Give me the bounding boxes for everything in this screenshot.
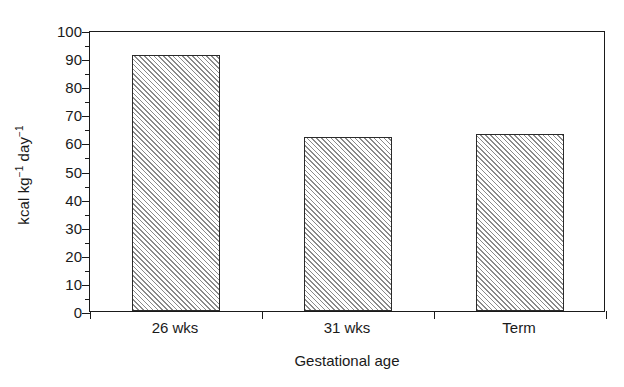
y-axis-minor-tick (85, 243, 90, 244)
y-axis-minor-tick (85, 215, 90, 216)
y-axis-tick-label: 10 (65, 276, 82, 291)
y-axis-major-tick (82, 32, 90, 33)
y-axis-tick-label: 60 (65, 136, 82, 151)
x-axis-tick-label: Term (502, 320, 535, 335)
y-axis-major-tick (82, 88, 90, 89)
y-axis-major-tick (82, 201, 90, 202)
y-axis-title: kcal kg−1 day−1 (10, 50, 36, 300)
y-axis-major-tick (82, 313, 90, 314)
x-axis-end-tick (90, 311, 91, 319)
y-axis-title-exponent-1: −1 (14, 166, 25, 178)
y-axis-major-tick (82, 229, 90, 230)
y-axis-tick-label: 80 (65, 80, 82, 95)
y-axis-minor-tick (85, 102, 90, 103)
y-axis-tick-label: 50 (65, 164, 82, 179)
plot-area (89, 31, 605, 312)
y-axis-tick-label: 70 (65, 108, 82, 123)
bar (132, 55, 221, 311)
y-axis-tick-label: 40 (65, 192, 82, 207)
x-axis-tick-labels: 26 wks31 wksTerm (89, 320, 605, 342)
bar-chart-figure: kcal kg−1 day−1 0102030405060708090100 2… (0, 0, 624, 387)
x-axis-tick (434, 311, 435, 319)
x-axis-tick (262, 311, 263, 319)
x-axis-end-tick (606, 311, 607, 319)
x-axis-tick-label: 31 wks (324, 320, 371, 335)
y-axis-minor-tick (85, 130, 90, 131)
y-axis-tick-labels: 0102030405060708090100 (36, 31, 82, 312)
y-axis-major-tick (82, 144, 90, 145)
y-axis-tick-label: 30 (65, 220, 82, 235)
y-axis-title-exponent-2: −1 (14, 125, 25, 137)
y-axis-title-prefix: kcal kg (15, 177, 32, 224)
y-axis-minor-tick (85, 158, 90, 159)
y-axis-major-tick (82, 285, 90, 286)
y-axis-major-tick (82, 116, 90, 117)
y-axis-minor-tick (85, 74, 90, 75)
x-axis-tick-label: 26 wks (152, 320, 199, 335)
y-axis-minor-tick (85, 299, 90, 300)
y-axis-tick-label: 20 (65, 248, 82, 263)
y-axis-major-tick (82, 173, 90, 174)
y-axis-tick-label: 90 (65, 52, 82, 67)
y-axis-tick-label: 100 (57, 24, 82, 39)
y-axis-minor-tick (85, 46, 90, 47)
y-axis-title-text: kcal kg−1 day−1 (15, 125, 32, 224)
y-axis-major-tick (82, 257, 90, 258)
y-axis-minor-tick (85, 271, 90, 272)
y-axis-tick-label: 0 (74, 305, 82, 320)
bar (476, 134, 565, 311)
y-axis-major-tick (82, 60, 90, 61)
y-axis-minor-tick (85, 187, 90, 188)
x-axis-title: Gestational age (89, 352, 605, 369)
bar (304, 137, 393, 311)
y-axis-title-mid: day (15, 137, 32, 166)
